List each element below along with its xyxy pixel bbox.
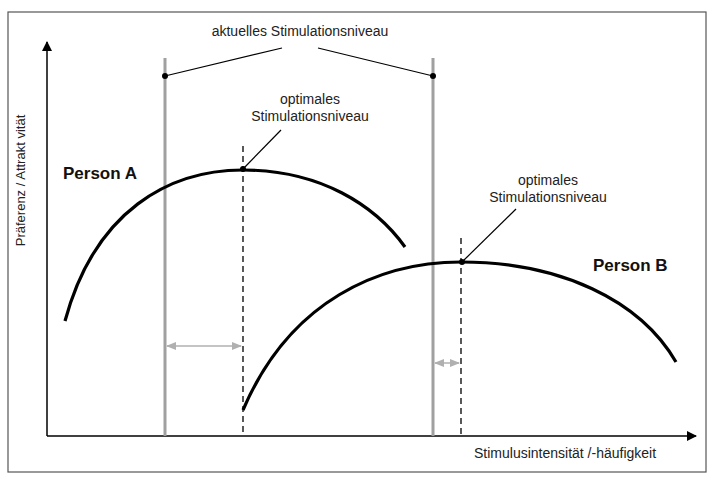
label-optimal-b-line2: Stimulationsniveau [478,189,618,206]
label-person-a: Person A [63,164,137,184]
label-optimal-a-line2: Stimulationsniveau [240,108,380,125]
leader-optimal-b [462,209,516,262]
label-optimal-b: optimales Stimulationsniveau [478,172,618,206]
frame-border [8,12,706,472]
label-optimal-b-line1: optimales [478,172,618,189]
curve-person-a [65,170,405,321]
diagram-canvas [0,0,716,484]
label-optimal-a-line1: optimales [240,91,380,108]
label-person-b: Person B [593,256,668,276]
point-optimal-b [459,259,465,265]
leader-optimal-a [243,130,281,169]
leader-current-a [165,48,282,76]
label-optimal-a: optimales Stimulationsniveau [240,91,380,125]
label-current-level: aktuelles Stimulationsniveau [200,23,400,40]
point-current-b [430,73,436,79]
label-y-axis: Präferenz / Attrakt vität [13,106,28,256]
label-x-axis: Stimulusintensität /-häufigkeit [474,445,656,461]
point-optimal-a [240,166,246,172]
leader-current-b [318,48,433,76]
point-current-a [162,73,168,79]
curve-person-b [243,262,676,410]
